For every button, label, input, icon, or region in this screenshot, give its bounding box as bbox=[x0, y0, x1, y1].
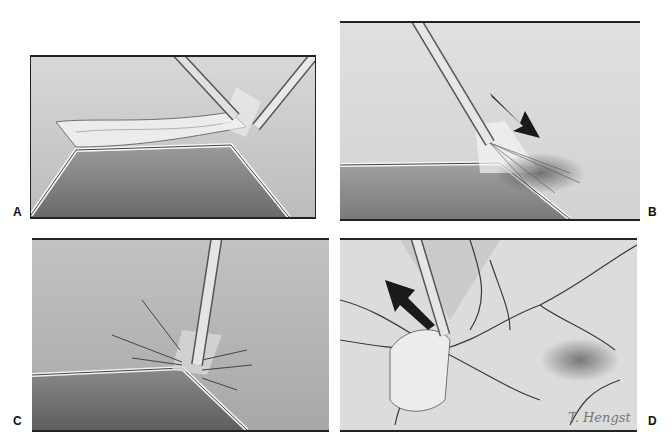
panel-c bbox=[32, 238, 329, 432]
panel-a bbox=[30, 55, 316, 219]
panel-label-b: B bbox=[648, 205, 657, 219]
artist-signature: T. Hengst bbox=[568, 410, 631, 425]
illustration-d: T. Hengst bbox=[340, 240, 637, 430]
panel-label-c: C bbox=[13, 414, 22, 428]
panel-d: T. Hengst bbox=[340, 238, 637, 432]
illustration-a bbox=[31, 57, 315, 217]
panel-b bbox=[340, 21, 640, 221]
illustration-b bbox=[340, 23, 640, 219]
illustration-c bbox=[32, 240, 329, 430]
panel-label-a: A bbox=[13, 205, 22, 219]
panel-label-d: D bbox=[648, 414, 657, 428]
